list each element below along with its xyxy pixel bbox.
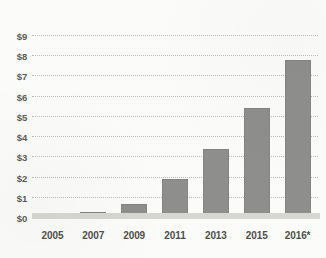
y-axis-tick-label: $1 — [17, 192, 27, 203]
y-axis-tick-label: $0 — [17, 213, 27, 224]
bar-series — [32, 18, 318, 222]
bar-2015 — [244, 108, 270, 218]
x-axis-tick-label: 2015 — [246, 230, 268, 241]
plot-area — [32, 18, 318, 222]
x-axis-tick-label: 2005 — [41, 230, 63, 241]
y-axis-tick-label: $7 — [17, 71, 27, 82]
x-axis-tick-label: 2009 — [123, 230, 145, 241]
y-axis-tick-label: $2 — [17, 172, 27, 183]
x-axis-tick-label: 2007 — [82, 230, 104, 241]
y-axis-tick-label: $5 — [17, 111, 27, 122]
x-axis-labels: 2005200720092011201320152016* — [32, 230, 318, 250]
x-axis-tick-label: 2011 — [164, 230, 185, 241]
y-axis-tick-label: $4 — [17, 132, 27, 143]
x-axis-tick-label: 2013 — [205, 230, 227, 241]
x-axis-tick-label: 2016* — [285, 230, 311, 241]
bar-2013 — [203, 149, 229, 218]
bar-2016-projected — [285, 60, 311, 218]
y-axis-tick-label: $9 — [17, 31, 27, 42]
bar-chart: $0$1$2$3$4$5$6$7$8$9 2005200720092011201… — [0, 0, 326, 258]
y-axis-tick-label: $8 — [17, 51, 27, 62]
y-axis-tick-label: $6 — [17, 91, 27, 102]
y-axis-tick-label: $3 — [17, 152, 27, 163]
axis-baseline — [32, 213, 320, 219]
y-axis-labels: $0$1$2$3$4$5$6$7$8$9 — [0, 18, 30, 222]
